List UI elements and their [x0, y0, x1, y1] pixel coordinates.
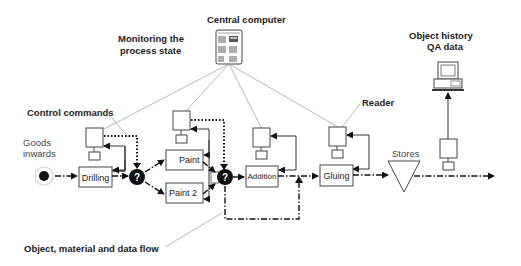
reader-label: Reader — [362, 97, 395, 108]
goods-inwards-node — [35, 167, 53, 185]
goods-inwards-label-line1: Goods — [23, 137, 51, 148]
reader-gluing — [329, 127, 346, 158]
reader-paint — [173, 111, 190, 143]
monitoring-label-line2: process state — [120, 45, 181, 56]
reader-stores — [440, 139, 457, 170]
process-addition-label: Addition — [248, 172, 277, 181]
flow-label: Object, material and data flow — [24, 243, 159, 254]
monitoring-label-line1: Monitoring the — [118, 33, 184, 44]
decision-node-2[interactable]: ? — [217, 169, 233, 185]
goods-inwards-label-line2: inwards — [23, 148, 56, 159]
process-paint[interactable]: Paint — [166, 150, 203, 170]
process-paint-label: Paint — [179, 155, 200, 165]
process-gluing[interactable]: Gluing — [320, 165, 353, 186]
decision-node-1[interactable]: ? — [129, 169, 145, 185]
process-gluing-label: Gluing — [323, 171, 349, 181]
decision-node-2-label: ? — [222, 172, 228, 183]
control-commands-label: Control commands — [27, 107, 114, 118]
object-history-label: Object history — [409, 30, 474, 41]
process-paint-2-label: Paint 2 — [169, 188, 197, 198]
qa-data-label: QA data — [427, 41, 464, 52]
process-paint-2[interactable]: Paint 2 — [166, 183, 203, 203]
stores-label: Stores — [392, 148, 420, 159]
process-flow-diagram: Central computer Monitoring the process … — [0, 0, 521, 266]
reader-drilling — [86, 128, 103, 160]
reader-addition — [253, 128, 270, 159]
process-addition[interactable]: Addition — [246, 166, 278, 187]
decision-node-1-label: ? — [134, 172, 140, 183]
terminal-icon — [432, 62, 464, 139]
central-computer-label: Central computer — [207, 14, 286, 25]
process-drilling[interactable]: Drilling — [79, 167, 112, 187]
central-computer-icon — [216, 30, 242, 64]
process-drilling-label: Drilling — [82, 173, 110, 183]
